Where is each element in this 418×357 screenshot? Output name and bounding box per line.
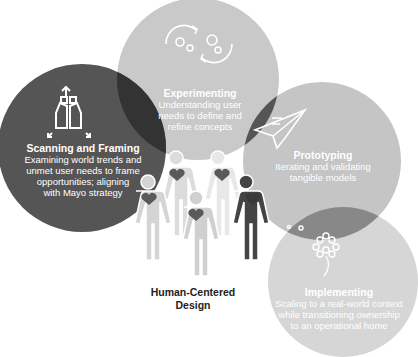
center-label: Human-Centered Design <box>138 286 248 312</box>
center-label-line: Human-Centered <box>138 286 248 299</box>
center-label-line: Design <box>138 299 248 312</box>
